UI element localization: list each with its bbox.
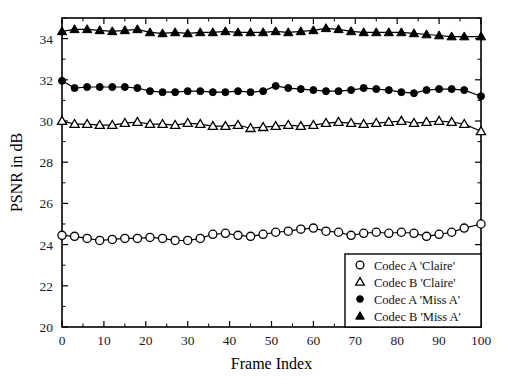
marker-filled-circle <box>385 87 392 94</box>
y-axis-title: PSNR in dB <box>8 133 25 212</box>
marker-filled-circle <box>247 89 254 96</box>
marker-open-triangle <box>435 116 444 124</box>
marker-filled-circle <box>478 93 485 100</box>
marker-open-triangle <box>57 116 66 124</box>
marker-filled-circle <box>348 87 355 94</box>
marker-open-triangle <box>397 116 406 124</box>
marker-filled-circle <box>109 84 116 91</box>
marker-open-circle <box>146 233 154 241</box>
marker-open-circle <box>356 261 364 269</box>
marker-filled-circle <box>184 88 191 95</box>
marker-open-triangle <box>233 121 242 129</box>
marker-filled-circle <box>360 85 367 92</box>
x-axis-title: Frame Index <box>231 355 312 372</box>
marker-open-circle <box>108 235 116 243</box>
marker-filled-circle <box>134 85 141 92</box>
series-4 <box>57 24 485 40</box>
marker-filled-circle <box>234 88 241 95</box>
x-tick-label: 70 <box>349 333 363 348</box>
series-1 <box>58 220 485 245</box>
marker-open-circle <box>58 231 66 239</box>
marker-filled-triangle <box>384 28 393 36</box>
marker-open-circle <box>448 228 456 236</box>
marker-filled-circle <box>373 86 380 93</box>
x-tick-label: 10 <box>97 333 111 348</box>
marker-filled-circle <box>335 88 342 95</box>
marker-filled-circle <box>410 90 417 97</box>
marker-open-circle <box>297 225 305 233</box>
marker-filled-triangle <box>133 25 142 33</box>
legend-label-1: Codec A 'Claire' <box>374 259 455 273</box>
marker-open-circle <box>158 234 166 242</box>
marker-open-circle <box>234 231 242 239</box>
marker-filled-circle <box>398 89 405 96</box>
marker-open-circle <box>196 234 204 242</box>
y-tick-label: 24 <box>40 238 54 253</box>
marker-open-circle <box>83 234 91 242</box>
marker-open-circle <box>133 234 141 242</box>
marker-open-circle <box>96 236 104 244</box>
y-tick-label: 20 <box>40 320 54 335</box>
marker-open-triangle <box>334 117 343 125</box>
x-tick-label: 80 <box>390 333 404 348</box>
x-tick-label: 90 <box>432 333 446 348</box>
marker-filled-triangle <box>397 28 406 36</box>
marker-filled-triangle <box>476 32 485 40</box>
marker-filled-circle <box>209 89 216 96</box>
marker-open-circle <box>422 232 430 240</box>
legend-label-3: Codec A 'Miss A' <box>374 293 460 307</box>
marker-filled-triangle <box>321 24 330 32</box>
marker-filled-circle <box>461 87 468 94</box>
marker-filled-triangle <box>246 28 255 36</box>
marker-filled-circle <box>310 87 317 94</box>
marker-filled-triangle <box>460 32 469 40</box>
marker-filled-circle <box>297 86 304 93</box>
marker-open-circle <box>477 220 485 228</box>
chart-container: 0102030405060708090100Frame Index2022242… <box>0 0 508 388</box>
marker-filled-circle <box>159 89 166 96</box>
x-tick-label: 40 <box>223 333 237 348</box>
x-tick-label: 30 <box>181 333 195 348</box>
x-tick-label: 0 <box>59 333 66 348</box>
marker-filled-triangle <box>83 25 92 33</box>
marker-open-circle <box>309 224 317 232</box>
marker-open-circle <box>410 229 418 237</box>
legend-label-2: Codec B 'Claire' <box>374 276 456 290</box>
marker-filled-circle <box>71 85 78 92</box>
marker-open-triangle <box>133 117 142 125</box>
marker-filled-triangle <box>70 25 79 33</box>
marker-open-circle <box>121 234 129 242</box>
marker-open-triangle <box>183 118 192 126</box>
marker-open-circle <box>246 232 254 240</box>
y-tick-label: 22 <box>40 279 54 294</box>
marker-filled-triangle <box>196 28 205 36</box>
marker-open-circle <box>184 236 192 244</box>
marker-filled-circle <box>172 89 179 96</box>
marker-open-circle <box>360 229 368 237</box>
marker-filled-circle <box>285 85 292 92</box>
marker-open-circle <box>397 228 405 236</box>
y-tick-label: 30 <box>40 114 54 129</box>
marker-open-circle <box>347 231 355 239</box>
legend-label-4: Codec B 'Miss A' <box>374 310 461 324</box>
marker-filled-triangle <box>171 28 180 36</box>
marker-open-triangle <box>83 119 92 127</box>
marker-open-triangle <box>476 127 485 135</box>
series-2 <box>57 116 485 134</box>
marker-open-circle <box>221 229 229 237</box>
marker-open-triangle <box>284 121 293 129</box>
y-tick-label: 28 <box>40 155 54 170</box>
marker-open-circle <box>435 230 443 238</box>
psnr-line-chart: 0102030405060708090100Frame Index2022242… <box>0 0 508 388</box>
marker-filled-circle <box>222 89 229 96</box>
marker-filled-circle <box>146 88 153 95</box>
marker-open-circle <box>209 230 217 238</box>
marker-open-triangle <box>158 119 167 127</box>
marker-open-circle <box>385 229 393 237</box>
marker-open-circle <box>322 227 330 235</box>
marker-filled-circle <box>272 82 279 89</box>
legend: Codec A 'Claire'Codec B 'Claire'Codec A … <box>345 254 481 327</box>
marker-filled-circle <box>423 87 430 94</box>
y-tick-label: 32 <box>40 73 54 88</box>
marker-open-circle <box>460 224 468 232</box>
